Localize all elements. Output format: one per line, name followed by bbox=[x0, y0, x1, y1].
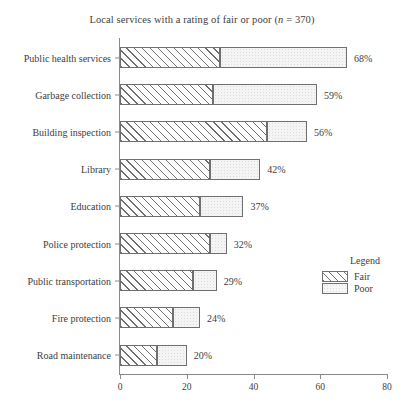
bar-value-label: 37% bbox=[250, 201, 268, 212]
bar-value-label: 68% bbox=[354, 52, 372, 63]
chart-title: Local services with a rating of fair or … bbox=[0, 14, 404, 25]
chart-title-text: Local services with a rating of fair or … bbox=[89, 14, 278, 25]
category-label: Public transportation bbox=[27, 275, 111, 286]
x-axis-tick bbox=[387, 374, 388, 379]
chart-title-tail: = 370) bbox=[283, 14, 314, 25]
x-axis-tick-label: 60 bbox=[316, 382, 326, 392]
bar-segment-fair bbox=[120, 84, 213, 105]
bar-segment-poor bbox=[200, 196, 243, 217]
x-axis-tick-label: 0 bbox=[118, 382, 123, 392]
legend-swatch-fair-icon bbox=[322, 271, 348, 282]
bar-segment-poor bbox=[210, 233, 227, 254]
legend-label-fair: Fair bbox=[354, 271, 370, 282]
category-label: Library bbox=[81, 164, 111, 175]
x-axis-tick-label: 40 bbox=[249, 382, 259, 392]
bar-segment-poor bbox=[157, 345, 187, 366]
bar-row: Road maintenance20% bbox=[120, 345, 387, 366]
legend-label-poor: Poor bbox=[354, 283, 373, 294]
bar-segment-poor bbox=[213, 84, 316, 105]
bar-segment-poor bbox=[210, 159, 260, 180]
plot-area: Public health services68%Garbage collect… bbox=[120, 38, 387, 374]
x-axis-tick bbox=[120, 374, 121, 379]
legend: Legend Fair Poor bbox=[322, 255, 402, 295]
bar-segment-fair bbox=[120, 121, 267, 142]
category-label: Garbage collection bbox=[35, 89, 111, 100]
bar-value-label: 32% bbox=[234, 238, 252, 249]
bar-segment-fair bbox=[120, 159, 210, 180]
category-label: Public health services bbox=[24, 52, 111, 63]
bar-value-label: 24% bbox=[207, 312, 225, 323]
chart-container: Local services with a rating of fair or … bbox=[0, 0, 404, 417]
legend-item-fair: Fair bbox=[322, 271, 402, 282]
bar-value-label: 56% bbox=[314, 126, 332, 137]
category-label: Road maintenance bbox=[37, 350, 111, 361]
x-axis-tick-label: 20 bbox=[182, 382, 192, 392]
bar-row: Education37% bbox=[120, 196, 387, 217]
legend-swatch-poor-icon bbox=[322, 283, 348, 294]
bar-segment-fair bbox=[120, 196, 200, 217]
category-label: Education bbox=[70, 201, 111, 212]
bar-segment-poor bbox=[173, 307, 200, 328]
bar-row: Fire protection24% bbox=[120, 307, 387, 328]
bar-row: Public health services68% bbox=[120, 47, 387, 68]
bar-segment-poor bbox=[193, 270, 216, 291]
category-label: Fire protection bbox=[52, 312, 111, 323]
category-label: Building inspection bbox=[32, 126, 111, 137]
x-axis-tick bbox=[254, 374, 255, 379]
category-label: Police protection bbox=[43, 238, 111, 249]
x-axis-tick bbox=[320, 374, 321, 379]
bar-segment-fair bbox=[120, 47, 220, 68]
x-axis-tick-label: 80 bbox=[382, 382, 392, 392]
bar-segment-poor bbox=[220, 47, 347, 68]
legend-item-poor: Poor bbox=[322, 283, 402, 294]
bar-row: Building inspection56% bbox=[120, 121, 387, 142]
bar-row: Garbage collection59% bbox=[120, 84, 387, 105]
bar-value-label: 42% bbox=[267, 164, 285, 175]
bar-value-label: 59% bbox=[324, 89, 342, 100]
bar-segment-fair bbox=[120, 307, 173, 328]
bar-value-label: 29% bbox=[224, 275, 242, 286]
bar-value-label: 20% bbox=[194, 350, 212, 361]
bar-segment-fair bbox=[120, 233, 210, 254]
bar-segment-fair bbox=[120, 345, 157, 366]
legend-title: Legend bbox=[328, 255, 402, 266]
x-axis-tick bbox=[187, 374, 188, 379]
bar-segment-fair bbox=[120, 270, 193, 291]
bar-row: Library42% bbox=[120, 159, 387, 180]
bar-segment-poor bbox=[267, 121, 307, 142]
bar-row: Police protection32% bbox=[120, 233, 387, 254]
